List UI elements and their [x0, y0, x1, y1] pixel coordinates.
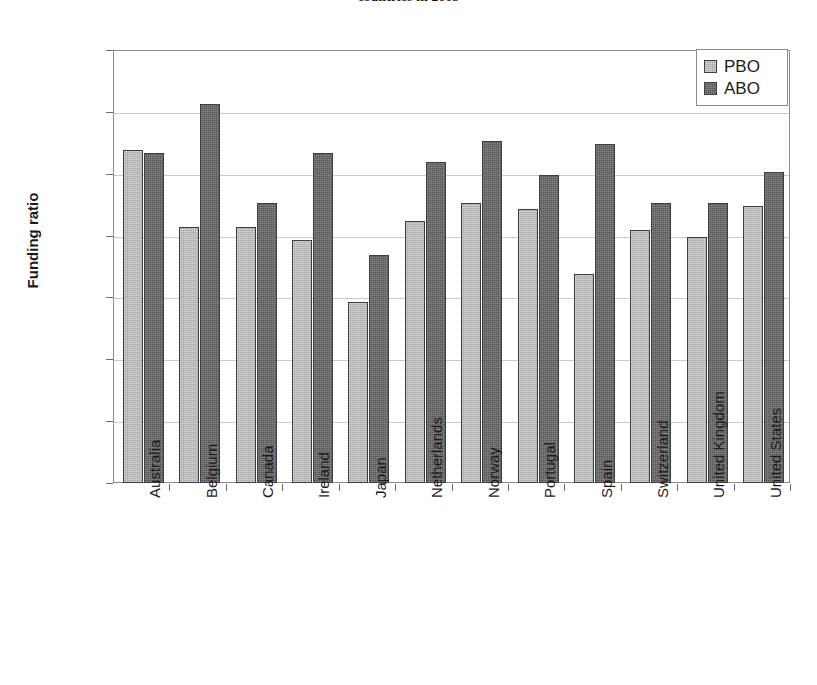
- x-tick-mark: [282, 484, 283, 491]
- bar-spain-pbo: [574, 274, 594, 483]
- x-tick-mark: [339, 484, 340, 491]
- bar-ireland-pbo: [292, 240, 312, 483]
- bar-canada-abo: [257, 203, 277, 483]
- x-category-label: United Kingdom: [711, 391, 726, 498]
- y-tick-mark: [106, 359, 113, 360]
- bar-switzerland-pbo: [630, 230, 650, 483]
- y-tick-mark: [106, 174, 113, 175]
- legend-swatch-icon-pbo: [704, 60, 717, 73]
- x-category-label: Netherlands: [429, 417, 444, 498]
- legend-label: PBO: [724, 58, 760, 75]
- x-tick-mark: [169, 484, 170, 491]
- x-category-label: Belgium: [204, 444, 219, 498]
- x-tick-mark: [226, 484, 227, 491]
- x-tick-mark: [677, 484, 678, 491]
- bar-norway-abo: [482, 141, 502, 483]
- x-tick-mark: [508, 484, 509, 491]
- bar-japan-abo: [369, 255, 389, 483]
- legend-label: ABO: [724, 80, 760, 97]
- x-tick-mark: [621, 484, 622, 491]
- chart-title: countries in 2005: [0, 0, 817, 5]
- bar-netherlands-pbo: [405, 221, 425, 483]
- y-tick-mark: [106, 297, 113, 298]
- x-category-label: Canada: [260, 445, 275, 498]
- bar-canada-pbo: [236, 227, 256, 483]
- legend-item-pbo: PBO: [704, 55, 781, 77]
- x-category-label: Spain: [599, 460, 614, 498]
- bar-japan-pbo: [348, 302, 368, 483]
- y-tick-mark: [106, 50, 113, 51]
- x-category-label: Australia: [147, 440, 162, 498]
- chart-legend: PBOABO: [696, 49, 788, 106]
- bar-norway-pbo: [461, 203, 481, 483]
- x-tick-mark: [395, 484, 396, 491]
- y-tick-mark: [106, 483, 113, 484]
- plot-area: [113, 50, 790, 483]
- x-tick-mark: [452, 484, 453, 491]
- y-tick-mark: [106, 421, 113, 422]
- y-axis-title: Funding ratio: [24, 161, 41, 321]
- legend-item-abo: ABO: [704, 77, 781, 99]
- x-tick-mark: [790, 484, 791, 491]
- bar-ireland-abo: [313, 153, 333, 483]
- legend-swatch-icon-abo: [704, 82, 717, 95]
- bar-spain-abo: [595, 144, 615, 483]
- x-category-label: Ireland: [316, 452, 331, 498]
- x-tick-mark: [734, 484, 735, 491]
- bar-portugal-pbo: [518, 209, 538, 483]
- x-category-label: Switzerland: [655, 420, 670, 498]
- x-tick-mark: [564, 484, 565, 491]
- x-category-label: United States: [768, 408, 783, 498]
- y-tick-mark: [106, 236, 113, 237]
- bar-australia-abo: [144, 153, 164, 483]
- x-category-label: Japan: [373, 457, 388, 498]
- x-category-label: Norway: [486, 447, 501, 498]
- bar-portugal-abo: [539, 175, 559, 483]
- bar-united-states-pbo: [743, 206, 763, 483]
- bar-united-kingdom-pbo: [687, 237, 707, 483]
- bar-belgium-abo: [200, 104, 220, 483]
- bar-belgium-pbo: [179, 227, 199, 483]
- y-tick-mark: [106, 112, 113, 113]
- x-category-label: Portugal: [542, 442, 557, 498]
- bar-australia-pbo: [123, 150, 143, 483]
